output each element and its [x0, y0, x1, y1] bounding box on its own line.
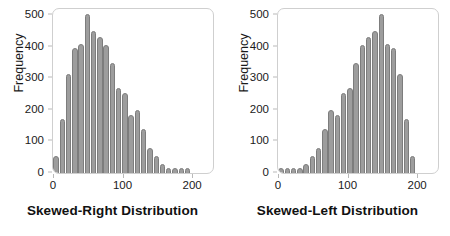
- histogram-bar: [379, 14, 384, 174]
- y-tick-label: 200: [250, 103, 269, 115]
- x-tick-mark: [53, 174, 54, 178]
- y-tick-label: 200: [25, 103, 44, 115]
- histogram-bar: [60, 119, 65, 174]
- y-tick-label: 0: [263, 166, 269, 178]
- x-tick-mark: [192, 174, 193, 178]
- histogram-bar: [347, 88, 352, 174]
- y-axis-ticks-right: 0100200300400500: [243, 8, 273, 176]
- histogram-bar: [410, 156, 415, 174]
- histogram-bar: [154, 156, 159, 174]
- histogram-bar: [322, 129, 327, 174]
- histogram-bar: [404, 119, 409, 174]
- histogram-bar: [391, 48, 396, 174]
- histogram-bar: [116, 88, 121, 174]
- plot-area-left: [52, 8, 214, 174]
- histogram-bar: [103, 45, 108, 174]
- x-tick-label: 0: [50, 179, 56, 191]
- histogram-bar: [53, 156, 58, 174]
- histogram-bars-left: [53, 9, 213, 173]
- x-tick-mark: [278, 174, 279, 178]
- y-tick-label: 300: [25, 71, 44, 83]
- panel-title-right: Skewed-Left Distribution: [225, 203, 450, 218]
- panel-title-left: Skewed-Right Distribution: [0, 203, 225, 218]
- histogram-bar: [66, 74, 71, 174]
- histogram-bar: [360, 45, 365, 174]
- x-tick-label: 200: [183, 179, 202, 191]
- panel-skewed-left: Frequency 0100200300400500 0100200 Skewe…: [225, 0, 450, 236]
- y-tick-label: 400: [25, 40, 44, 52]
- histogram-bar: [78, 44, 83, 174]
- y-tick-label: 500: [250, 8, 269, 20]
- histogram-bar: [160, 164, 165, 174]
- x-tick-mark: [417, 174, 418, 178]
- histogram-bar: [97, 37, 102, 174]
- histogram-bar: [303, 164, 308, 174]
- histogram-bar: [72, 48, 77, 174]
- y-axis-ticks-left: 0100200300400500: [18, 8, 48, 176]
- histogram-bar: [335, 115, 340, 174]
- histogram-bars-right: [278, 9, 438, 173]
- x-tick-label: 0: [275, 179, 281, 191]
- x-tick-label: 100: [113, 179, 132, 191]
- y-tick-label: 500: [25, 8, 44, 20]
- histogram-bar: [372, 31, 377, 174]
- plot-area-right: [277, 8, 439, 174]
- histogram-bar: [122, 93, 127, 174]
- histogram-bar: [353, 63, 358, 174]
- x-axis-ticks-left: 0100200: [52, 174, 214, 198]
- x-tick-label: 200: [408, 179, 427, 191]
- x-axis-ticks-right: 0100200: [277, 174, 439, 198]
- y-tick-label: 0: [38, 166, 44, 178]
- y-tick-label: 400: [250, 40, 269, 52]
- y-tick-mark: [48, 172, 52, 173]
- histogram-bar: [316, 148, 321, 174]
- x-tick-label: 100: [338, 179, 357, 191]
- y-tick-mark: [273, 172, 277, 173]
- histogram-bar: [135, 110, 140, 174]
- histogram-bar: [91, 31, 96, 174]
- histogram-bar: [110, 63, 115, 174]
- y-tick-label: 300: [250, 71, 269, 83]
- y-tick-label: 100: [250, 134, 269, 146]
- histogram-bar: [310, 156, 315, 174]
- histogram-bar: [341, 93, 346, 174]
- histogram-bar: [141, 129, 146, 174]
- histogram-bar: [147, 148, 152, 174]
- figure-two-histograms: Frequency 0100200300400500 0100200 Skewe…: [0, 0, 450, 236]
- y-tick-label: 100: [25, 134, 44, 146]
- x-tick-mark: [123, 174, 124, 178]
- histogram-bar: [366, 37, 371, 174]
- histogram-bar: [128, 115, 133, 174]
- histogram-bar: [85, 14, 90, 174]
- histogram-bar: [328, 110, 333, 174]
- x-tick-mark: [348, 174, 349, 178]
- histogram-bar: [385, 44, 390, 174]
- histogram-bar: [397, 74, 402, 174]
- panel-skewed-right: Frequency 0100200300400500 0100200 Skewe…: [0, 0, 225, 236]
